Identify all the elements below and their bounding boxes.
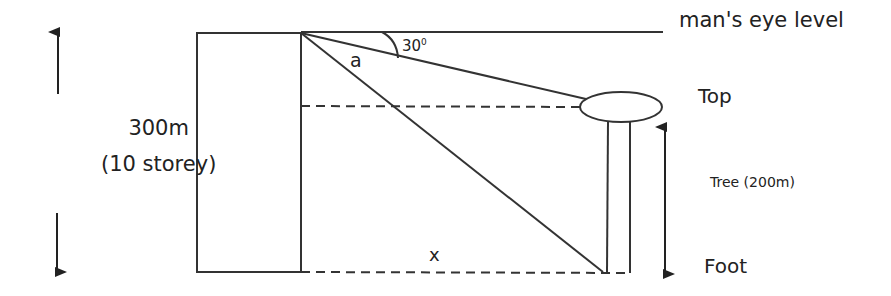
tree-crown: [580, 92, 662, 122]
angle-value: 30: [402, 37, 421, 55]
tree-height-label: Tree (200m): [710, 174, 795, 190]
tree-trunk-left: [607, 122, 608, 272]
building-height-value: 300m: [101, 110, 216, 146]
building-height-label: 300m (10 storey): [101, 110, 216, 182]
distance-label: x: [429, 244, 440, 265]
top-label: Top: [698, 84, 732, 108]
ground-dashed-line: [301, 272, 630, 273]
foot-label: Foot: [704, 254, 747, 278]
diagonal-label: a: [350, 49, 362, 71]
building-storeys: (10 storey): [101, 146, 216, 182]
top-level-dashed-line: [301, 106, 580, 107]
eye-level-label: man's eye level: [679, 8, 844, 32]
degree-symbol: 0: [421, 37, 427, 47]
angle-label: 300: [402, 37, 427, 55]
